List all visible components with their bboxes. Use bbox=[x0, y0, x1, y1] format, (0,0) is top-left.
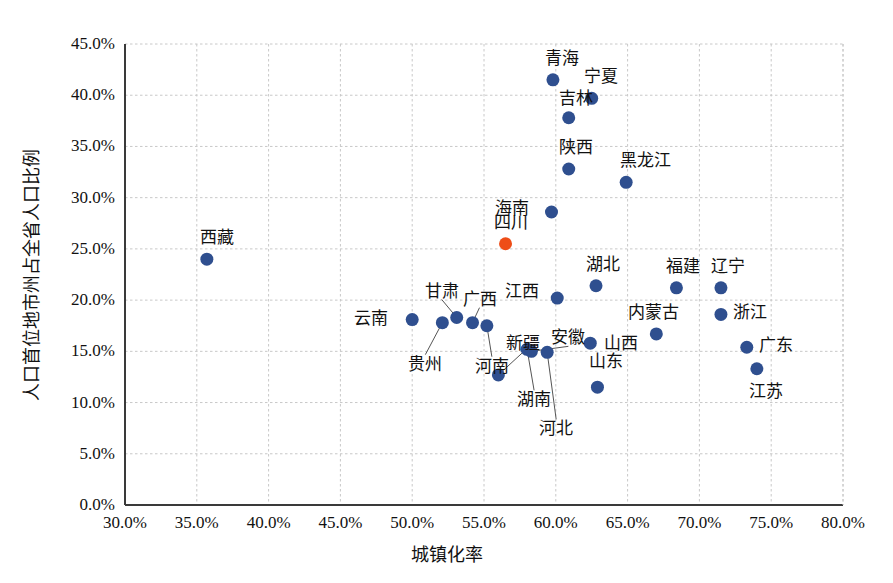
data-point bbox=[200, 253, 213, 266]
data-point bbox=[590, 279, 603, 292]
point-label: 辽宁 bbox=[711, 258, 745, 275]
data-point bbox=[499, 237, 512, 250]
data-point bbox=[436, 316, 449, 329]
data-point bbox=[466, 316, 479, 329]
data-point bbox=[620, 176, 633, 189]
data-point bbox=[714, 281, 727, 294]
point-label: 湖南 bbox=[517, 391, 551, 408]
data-point bbox=[670, 281, 683, 294]
data-point bbox=[591, 381, 604, 394]
point-label: 新疆 bbox=[506, 335, 540, 352]
point-label: 陕西 bbox=[559, 139, 593, 156]
data-point bbox=[650, 327, 663, 340]
point-label: 广东 bbox=[759, 337, 793, 354]
scatter-chart: 0.0%5.0%10.0%15.0%20.0%25.0%30.0%35.0%40… bbox=[0, 0, 893, 583]
point-label: 海南 bbox=[495, 200, 529, 217]
data-points bbox=[200, 73, 763, 393]
point-label: 甘肃 bbox=[425, 283, 459, 300]
point-label: 内蒙古 bbox=[628, 304, 679, 321]
point-label: 西藏 bbox=[200, 229, 234, 246]
data-point bbox=[541, 346, 554, 359]
data-point bbox=[545, 206, 558, 219]
point-label: 江西 bbox=[505, 283, 539, 300]
data-point bbox=[740, 341, 753, 354]
y-axis-title: 人口首位地市州占全省人口比例 bbox=[17, 40, 43, 510]
point-label: 福建 bbox=[666, 258, 700, 275]
data-point bbox=[562, 162, 575, 175]
point-label: 安徽 bbox=[551, 329, 585, 346]
x-tick-label: 80.0% bbox=[798, 513, 888, 533]
point-label: 吉林 bbox=[559, 90, 593, 107]
data-point bbox=[562, 111, 575, 124]
data-point bbox=[480, 319, 493, 332]
point-label: 河南 bbox=[475, 358, 509, 375]
point-label: 黑龙江 bbox=[620, 152, 671, 169]
point-label: 湖北 bbox=[586, 256, 620, 273]
point-label: 浙江 bbox=[733, 304, 767, 321]
point-label: 宁夏 bbox=[584, 68, 618, 85]
point-label: 山西 bbox=[604, 335, 638, 352]
data-point bbox=[584, 337, 597, 350]
point-label: 青海 bbox=[545, 50, 579, 67]
point-label: 山东 bbox=[589, 353, 623, 370]
point-label: 江苏 bbox=[749, 383, 783, 400]
data-point bbox=[714, 308, 727, 321]
point-label: 贵州 bbox=[408, 356, 442, 373]
point-label: 河北 bbox=[539, 420, 573, 437]
x-axis-title: 城镇化率 bbox=[0, 540, 893, 566]
point-label: 云南 bbox=[354, 310, 388, 327]
data-point bbox=[406, 313, 419, 326]
data-point bbox=[551, 292, 564, 305]
data-point bbox=[450, 311, 463, 324]
data-point bbox=[546, 73, 559, 86]
point-label: 广西 bbox=[463, 291, 497, 308]
data-point bbox=[750, 362, 763, 375]
